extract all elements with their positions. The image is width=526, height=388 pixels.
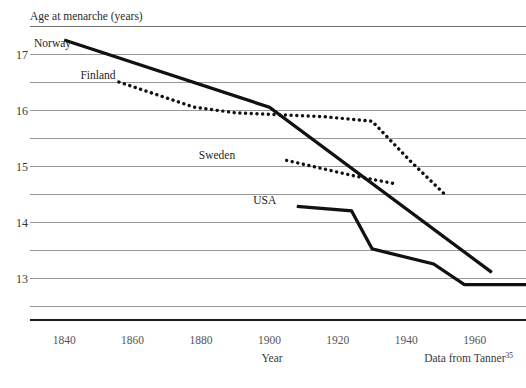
y-tick-label-13: 13 — [16, 272, 28, 286]
source-note-text: Data from Tanner35 — [424, 351, 513, 364]
chart-container: Age at menarche (years) 1314151617 18401… — [0, 0, 526, 388]
x-tick-label-1900: 1900 — [258, 334, 281, 346]
series-label-sweden: Sweden — [199, 149, 236, 161]
y-tick-label-16: 16 — [16, 104, 28, 118]
menarche-age-line-chart: Age at menarche (years) 1314151617 18401… — [0, 0, 526, 388]
y-tick-label-15: 15 — [16, 160, 28, 174]
x-axis-title: Year — [261, 352, 282, 364]
x-tick-label-1880: 1880 — [190, 334, 213, 346]
y-tick-label-17: 17 — [16, 48, 28, 62]
y-axis-title: Age at menarche (years) — [30, 10, 143, 23]
series-label-norway: Norway — [34, 37, 71, 50]
series-label-finland: Finland — [80, 69, 115, 81]
series-label-usa: USA — [253, 194, 277, 206]
x-tick-label-1940: 1940 — [395, 334, 418, 346]
x-tick-label-1860: 1860 — [121, 334, 144, 346]
source-note: Data from Tanner35 — [424, 351, 513, 364]
source-note-superscript: 35 — [506, 351, 514, 360]
x-tick-label-1840: 1840 — [53, 334, 76, 346]
x-tick-label-1960: 1960 — [463, 334, 486, 346]
source-note-label: Data from Tanner — [424, 352, 506, 364]
x-tick-label-1920: 1920 — [326, 334, 349, 346]
y-tick-label-14: 14 — [16, 216, 28, 230]
